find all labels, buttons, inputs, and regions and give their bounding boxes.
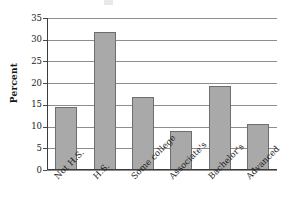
y-axis-tick-label: 0: [24, 166, 42, 175]
x-axis-tick-labels: Not H.S.H.S.Some collegeAssociate'sBache…: [47, 170, 284, 224]
y-axis-tick-label: 35: [24, 14, 42, 23]
gridline: [47, 40, 277, 41]
bar-chart-figure: Percent 05101520253035 Not H.S.H.S.Some …: [0, 0, 284, 224]
y-axis-line: [47, 18, 48, 170]
y-axis-tick-labels: 05101520253035: [22, 0, 42, 224]
gridline: [47, 18, 277, 19]
y-axis-tick-label: 15: [24, 100, 42, 109]
gridline: [47, 127, 277, 128]
gridline: [47, 83, 277, 84]
cropped-title-artifact: [104, 0, 113, 5]
y-axis-tick-label: 25: [24, 57, 42, 66]
y-axis-tick-label: 20: [24, 79, 42, 88]
gridline: [47, 105, 277, 106]
gridline: [47, 61, 277, 62]
y-axis-tick-label: 30: [24, 35, 42, 44]
y-axis-tick-label: 10: [24, 122, 42, 131]
y-axis-title: Percent: [9, 53, 19, 113]
y-axis-tick-label: 5: [24, 144, 42, 153]
bar: [94, 32, 116, 170]
